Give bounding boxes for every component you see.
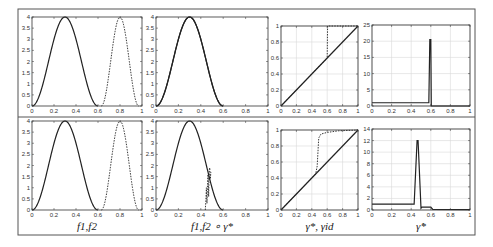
y-tick-label: 3 — [27, 140, 31, 146]
y-tick-label: 1.5 — [146, 174, 155, 180]
series-line — [156, 121, 223, 210]
x-tick-label: 0.6 — [219, 108, 228, 114]
y-tick-label: 1 — [276, 23, 280, 29]
x-tick-label: 0.6 — [94, 212, 103, 218]
y-tick-label: 3.5 — [22, 25, 31, 31]
series-line — [101, 17, 138, 106]
y-tick-label: 3 — [151, 36, 155, 42]
y-tick-label: 14 — [363, 126, 370, 132]
x-tick-label: 0.4 — [407, 212, 416, 218]
x-axis-label: f1,f2 ∘ γ* — [191, 220, 234, 232]
x-axis-label: γ̇* — [416, 220, 426, 232]
x-tick-label: 0.2 — [174, 108, 183, 114]
y-tick-label: 3 — [27, 36, 31, 42]
y-tick-label: 15 — [363, 54, 370, 60]
y-tick-label: 0.8 — [271, 143, 280, 149]
y-tick-label: 10 — [363, 149, 370, 155]
x-tick-label: 0.4 — [72, 212, 81, 218]
y-tick-label: 0.5 — [146, 92, 155, 98]
plot-r2c2: 00.20.40.60.8100.511.522.533.54f1,f2 ∘ γ… — [146, 118, 271, 232]
x-tick-label: 0.8 — [116, 212, 125, 218]
y-tick-label: 4 — [27, 14, 31, 20]
y-tick-label: 10 — [363, 71, 370, 77]
y-tick-label: 2.5 — [22, 151, 31, 157]
x-tick-label: 0 — [279, 108, 283, 114]
x-tick-label: 0 — [30, 108, 34, 114]
x-tick-label: 0.4 — [197, 108, 206, 114]
x-tick-label: 1 — [356, 108, 360, 114]
x-tick-label: 0.6 — [427, 212, 436, 218]
x-tick-label: 0.6 — [94, 108, 103, 114]
x-tick-label: 1 — [266, 108, 270, 114]
y-tick-label: 6 — [367, 172, 371, 178]
x-tick-label: 0.2 — [387, 108, 396, 114]
y-tick-label: 2 — [151, 59, 155, 65]
x-tick-label: 0.6 — [323, 108, 332, 114]
series-line — [101, 121, 138, 210]
y-tick-label: 0.6 — [271, 55, 280, 61]
x-tick-label: 0.2 — [292, 108, 301, 114]
y-tick-label: 20 — [363, 38, 370, 44]
y-tick-label: 3 — [151, 140, 155, 146]
y-tick-label: 3.5 — [146, 129, 155, 135]
y-tick-label: 2.5 — [22, 47, 31, 53]
x-tick-label: 0.8 — [338, 212, 347, 218]
y-tick-label: 4 — [151, 14, 155, 20]
y-tick-label: 0.4 — [271, 175, 280, 181]
y-tick-label: 0.5 — [22, 196, 31, 202]
plot-r1c1: 00.20.40.60.8100.511.522.533.54 — [22, 14, 145, 114]
x-axis-label: γ*, γid — [305, 220, 334, 232]
y-tick-label: 1.5 — [22, 174, 31, 180]
y-tick-label: 2.5 — [146, 47, 155, 53]
y-tick-label: 0.5 — [22, 92, 31, 98]
y-tick-label: 1 — [27, 81, 31, 87]
x-tick-label: 1 — [140, 212, 144, 218]
x-tick-label: 0.2 — [292, 212, 301, 218]
x-tick-label: 0.4 — [308, 212, 317, 218]
x-tick-label: 1 — [266, 212, 270, 218]
x-tick-label: 0.2 — [174, 212, 183, 218]
series-line — [32, 121, 98, 210]
series-line — [32, 17, 98, 106]
x-tick-label: 0.8 — [116, 108, 125, 114]
x-tick-label: 0.4 — [407, 108, 416, 114]
x-tick-label: 0 — [370, 108, 374, 114]
y-tick-label: 1 — [276, 127, 280, 133]
plot-r2c1: 00.20.40.60.8100.511.522.533.54f1,f2 — [22, 118, 145, 232]
y-tick-label: 3.5 — [146, 25, 155, 31]
y-tick-label: 0.2 — [271, 191, 280, 197]
y-tick-label: 1.5 — [146, 70, 155, 76]
x-tick-label: 0.4 — [197, 212, 206, 218]
x-tick-label: 0.8 — [446, 108, 455, 114]
x-tick-label: 0.6 — [323, 212, 332, 218]
y-tick-label: 2 — [151, 163, 155, 169]
x-tick-label: 0.8 — [241, 108, 250, 114]
series-line — [372, 40, 470, 106]
y-tick-label: 12 — [363, 138, 370, 144]
x-tick-label: 1 — [140, 108, 144, 114]
figure-frame — [18, 9, 475, 235]
y-tick-label: 1.5 — [22, 70, 31, 76]
x-tick-label: 0 — [30, 212, 34, 218]
y-tick-label: 2.5 — [146, 151, 155, 157]
y-tick-label: 0.5 — [146, 196, 155, 202]
y-tick-label: 5 — [367, 87, 371, 93]
x-tick-label: 0 — [279, 212, 283, 218]
y-tick-label: 8 — [367, 161, 371, 167]
x-tick-label: 0.6 — [427, 108, 436, 114]
y-tick-label: 0.8 — [271, 39, 280, 45]
figure-canvas: 00.20.40.60.8100.511.522.533.5400.20.40.… — [0, 0, 493, 247]
y-tick-label: 2 — [27, 163, 31, 169]
series-line — [156, 17, 223, 106]
y-tick-label: 0.6 — [271, 159, 280, 165]
plot-r2c3: 00.20.40.60.8100.20.40.60.81γ*, γid — [271, 127, 361, 232]
plot-r1c4: 00.20.40.60.810510152025 — [363, 22, 472, 114]
y-tick-label: 1 — [27, 185, 31, 191]
y-tick-label: 1 — [151, 81, 155, 87]
x-tick-label: 0.2 — [50, 108, 59, 114]
x-axis-label: f1,f2 — [77, 220, 97, 232]
x-tick-label: 0.8 — [446, 212, 455, 218]
x-tick-label: 0 — [154, 108, 158, 114]
y-tick-label: 2 — [367, 195, 371, 201]
x-tick-label: 0 — [370, 212, 374, 218]
